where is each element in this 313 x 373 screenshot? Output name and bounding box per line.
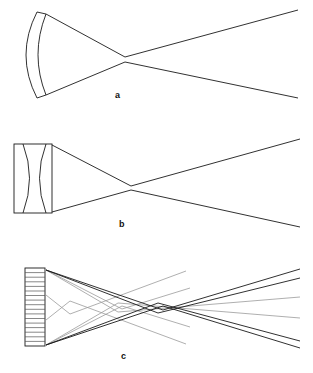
- panel-label-a: a: [115, 91, 120, 100]
- optical-ray-diagram: [0, 0, 313, 373]
- panel-label-c: c: [121, 352, 126, 361]
- panel-label-b: b: [119, 220, 125, 229]
